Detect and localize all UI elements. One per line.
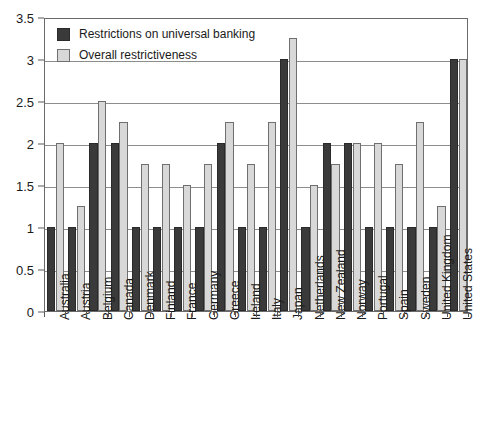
x-tick-mark: [362, 312, 363, 317]
x-tick-mark: [129, 312, 130, 317]
bar-group: [384, 19, 405, 311]
y-tick-label: 1.5: [16, 180, 34, 193]
x-tick-mark: [214, 312, 215, 317]
legend-label: Overall restrictiveness: [79, 49, 197, 61]
x-tick-mark: [404, 312, 405, 317]
legend-item: Restrictions on universal banking: [57, 27, 255, 41]
y-tick-label: 3.5: [16, 12, 34, 25]
bar: [47, 227, 55, 311]
bar: [289, 38, 297, 311]
x-tick-mark: [341, 312, 342, 317]
x-tick-mark: [171, 312, 172, 317]
x-tick-label: United Kingdom: [441, 235, 453, 320]
bar-group: [257, 19, 278, 311]
y-tick-label: 1: [27, 222, 34, 235]
x-tick-label: Netherlands: [314, 255, 326, 320]
x-tick-mark: [65, 312, 66, 317]
legend-swatch-icon: [57, 49, 70, 62]
y-tick-label: 0.5: [16, 264, 34, 277]
x-tick-mark: [298, 312, 299, 317]
bar-group: [278, 19, 299, 311]
x-tick-mark: [108, 312, 109, 317]
bar-group: [363, 19, 384, 311]
x-tick-mark: [44, 312, 45, 317]
x-tick-mark: [235, 312, 236, 317]
x-tick-mark: [277, 312, 278, 317]
x-tick-mark: [86, 312, 87, 317]
chart-legend: Restrictions on universal bankingOverall…: [57, 27, 255, 69]
y-tick-label: 3: [27, 54, 34, 67]
x-tick-mark: [256, 312, 257, 317]
bar-chart: 00.511.522.533.5 Restrictions on univers…: [0, 0, 487, 428]
legend-label: Restrictions on universal banking: [79, 28, 255, 40]
x-tick-mark: [426, 312, 427, 317]
legend-swatch-icon: [57, 28, 70, 41]
x-tick-mark: [320, 312, 321, 317]
x-tick-label: New Zealand: [335, 249, 347, 320]
y-tick-label: 2.5: [16, 96, 34, 109]
bar: [268, 122, 276, 311]
legend-item: Overall restrictiveness: [57, 48, 255, 62]
bar: [280, 59, 288, 311]
bar-group: [405, 19, 426, 311]
y-tick-label: 0: [27, 306, 34, 319]
x-tick-mark: [468, 312, 469, 317]
x-tick-label: United States: [462, 248, 474, 320]
y-axis: 00.511.522.533.5: [0, 0, 44, 428]
x-axis: AustraliaAustriaBelgiumCanadaDenmarkFinl…: [44, 312, 468, 428]
x-tick-mark: [150, 312, 151, 317]
y-tick-label: 2: [27, 138, 34, 151]
x-tick-mark: [447, 312, 448, 317]
x-tick-mark: [383, 312, 384, 317]
x-tick-mark: [192, 312, 193, 317]
